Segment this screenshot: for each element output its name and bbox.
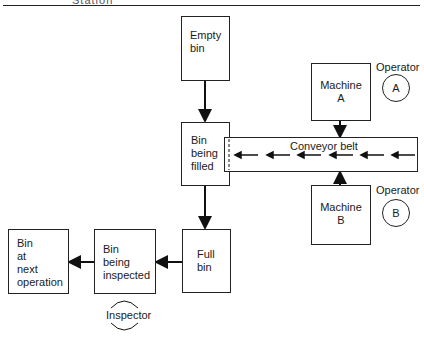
machine-a-box: Machine A <box>311 63 371 121</box>
machine-b-label: Machine B <box>312 201 370 227</box>
bin-at-next-operation-label: Bin at next operation <box>17 237 63 289</box>
machine-a-label: Machine A <box>312 79 370 105</box>
operator-a-circle: A <box>382 74 410 102</box>
full-bin-label: Full bin <box>197 248 215 274</box>
operator-b-symbol: B <box>392 207 399 219</box>
operator-a-label: Operator <box>376 61 419 74</box>
machine-b-box: Machine B <box>311 185 371 245</box>
operator-b-label: Operator <box>376 184 419 197</box>
operator-a-symbol: A <box>392 82 399 94</box>
bin-at-next-operation-box: Bin at next operation <box>8 229 69 294</box>
bin-being-inspected-box: Bin being inspected <box>94 229 156 294</box>
full-bin-box: Full bin <box>182 229 231 293</box>
inspector-label: Inspector <box>106 309 151 322</box>
operator-b-circle: B <box>382 199 410 227</box>
bin-being-inspected-label: Bin being inspected <box>103 243 150 282</box>
